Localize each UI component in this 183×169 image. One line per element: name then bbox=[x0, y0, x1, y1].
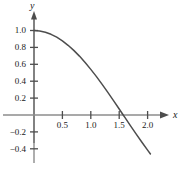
y-tick-label-0.8: 0.8 bbox=[0, 43, 26, 52]
y-tick-label-neg0.4: −0.4 bbox=[0, 145, 26, 154]
cosine-curve bbox=[34, 31, 150, 154]
y-axis-label: y bbox=[30, 1, 34, 11]
plot-canvas bbox=[0, 0, 183, 169]
x-axis-arrow-icon bbox=[160, 112, 169, 119]
cosine-plot-figure: 1.0 0.8 0.6 0.4 0.2 −0.2 −0.4 0.5 1.0 1.… bbox=[0, 0, 183, 169]
y-axis-arrow-icon bbox=[31, 11, 37, 20]
y-tick-label-0.6: 0.6 bbox=[0, 60, 26, 69]
y-tick-label-1.0: 1.0 bbox=[0, 26, 26, 35]
y-tick-label-0.2: 0.2 bbox=[0, 94, 26, 103]
x-tick-label-2.0: 2.0 bbox=[136, 121, 160, 130]
x-tick-label-1.5: 1.5 bbox=[107, 121, 131, 130]
x-axis-label: x bbox=[173, 110, 177, 120]
x-tick-label-0.5: 0.5 bbox=[50, 121, 74, 130]
y-tick-label-neg0.2: −0.2 bbox=[0, 128, 26, 137]
x-tick-label-1.0: 1.0 bbox=[79, 121, 103, 130]
y-tick-label-0.4: 0.4 bbox=[0, 77, 26, 86]
